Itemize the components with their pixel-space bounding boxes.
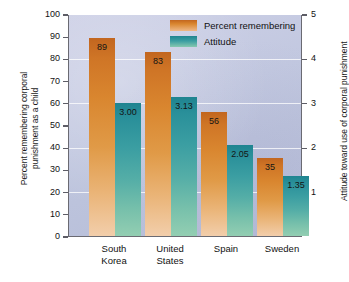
bar-value-label: 1.35 <box>283 180 309 190</box>
y-tick-label-left: 50 <box>30 121 60 130</box>
legend-label-percent: Percent remembering <box>204 20 295 31</box>
bar-value-label: 56 <box>201 116 227 126</box>
bar-percent-remembering: 89 <box>89 38 115 236</box>
y-tick-label-left: 40 <box>30 143 60 152</box>
y-tick-label-left: 90 <box>30 32 60 41</box>
bar-attitude: 3.00 <box>115 103 141 236</box>
attitude-swatch-icon <box>170 36 197 47</box>
y-axis-right-title: Attitude toward use of corporal punishme… <box>339 11 349 231</box>
x-axis-category-label: Sweden <box>242 243 322 255</box>
y-tick-label-right: 2 <box>311 143 331 152</box>
y-tick-label-left: 70 <box>30 77 60 86</box>
legend-item-percent-remembering: Percent remembering <box>170 18 298 32</box>
category-label-line1: United <box>156 243 183 254</box>
y-tick-label-left: 0 <box>30 232 60 241</box>
y-axis-left-title-line1: Percent remembering corporal <box>19 72 29 185</box>
y-tick-label-right: 1 <box>311 188 331 197</box>
y-tick-label-right: 3 <box>311 99 331 108</box>
bar-attitude: 2.05 <box>227 145 253 236</box>
y-tick-label-right: 4 <box>311 54 331 63</box>
percent-swatch-icon <box>170 20 197 31</box>
bar-value-label: 89 <box>89 42 115 52</box>
y-tick-label-left: 20 <box>30 188 60 197</box>
y-tick-label-left: 60 <box>30 99 60 108</box>
bar-value-label: 2.05 <box>227 149 253 159</box>
y-tick-mark-right <box>302 14 307 15</box>
bar-value-label: 3.13 <box>171 101 197 111</box>
category-label-line2: States <box>130 255 210 267</box>
y-tick-label-right: 5 <box>311 10 331 19</box>
bar-attitude: 3.13 <box>171 97 197 236</box>
y-tick-mark-right <box>302 148 307 149</box>
chart-legend: Percent remembering Attitude <box>170 18 298 50</box>
bar-attitude: 1.35 <box>283 176 309 236</box>
y-tick-label-left: 80 <box>30 54 60 63</box>
y-tick-label-left: 30 <box>30 165 60 174</box>
bar-value-label: 35 <box>257 162 283 172</box>
legend-label-attitude: Attitude <box>204 36 236 47</box>
y-tick-label-left: 10 <box>30 210 60 219</box>
category-label-line1: Sweden <box>265 243 299 254</box>
bar-percent-remembering: 35 <box>257 158 283 236</box>
bar-value-label: 3.00 <box>115 107 141 117</box>
bar-percent-remembering: 56 <box>201 112 227 236</box>
y-tick-label-left: 100 <box>30 10 60 19</box>
legend-item-attitude: Attitude <box>170 34 298 48</box>
category-label-line1: Spain <box>214 243 238 254</box>
bar-value-label: 83 <box>145 56 171 66</box>
y-tick-mark-right <box>302 59 307 60</box>
y-tick-mark-right <box>302 103 307 104</box>
category-label-line1: South <box>102 243 127 254</box>
bar-percent-remembering: 83 <box>145 52 171 236</box>
